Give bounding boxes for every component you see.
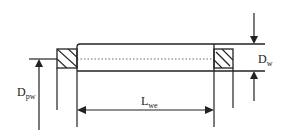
roller-diameter-dimension xyxy=(250,13,258,101)
extension-lines xyxy=(29,59,233,127)
roller-diagram: Dpw Dw Lwe xyxy=(0,0,284,139)
left-cage-section xyxy=(57,46,80,71)
roller-diameter-label: Dw xyxy=(258,52,273,68)
effective-length-label: Lwe xyxy=(141,94,158,110)
pitch-diameter-label: Dpw xyxy=(17,85,36,101)
roller-body xyxy=(77,44,265,71)
pitch-diameter-dimension xyxy=(35,59,43,130)
right-cage-section xyxy=(214,49,233,68)
